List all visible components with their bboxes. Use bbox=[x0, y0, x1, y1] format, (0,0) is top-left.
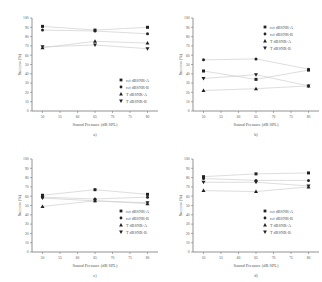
y-tick-label: 100 bbox=[23, 157, 29, 161]
y-tick-label: 70 bbox=[25, 185, 29, 189]
y-tick-label: 0 bbox=[27, 250, 29, 254]
y-tick-label: 30 bbox=[186, 222, 190, 226]
legend-label: T dBSNR-A bbox=[270, 39, 291, 44]
y-tick-label: 80 bbox=[25, 176, 29, 180]
marker-circle bbox=[120, 86, 123, 89]
legend-label: ref dBSNR-B bbox=[270, 216, 293, 221]
legend-label: T dBSNR-A bbox=[126, 92, 147, 97]
marker-circle bbox=[120, 217, 123, 220]
x-tick-label: 75 bbox=[128, 115, 132, 119]
panel-label: b) bbox=[254, 132, 258, 137]
y-tick-label: 70 bbox=[186, 44, 190, 48]
marker-triangle-up bbox=[263, 39, 267, 42]
y-tick-label: 20 bbox=[25, 91, 29, 95]
x-tick-label: 55 bbox=[58, 256, 62, 260]
y-tick-label: 0 bbox=[188, 250, 190, 254]
y-tick-label: 40 bbox=[25, 213, 29, 217]
x-tick-label: 70 bbox=[111, 256, 115, 260]
y-tick-label: 90 bbox=[186, 167, 190, 171]
marker-square bbox=[264, 26, 267, 29]
marker-square bbox=[120, 79, 123, 82]
marker-triangle-down bbox=[119, 100, 123, 103]
marker-square bbox=[255, 78, 258, 81]
legend-label: ref dBSNR-A bbox=[270, 209, 293, 214]
marker-triangle-up bbox=[263, 223, 267, 226]
marker-square bbox=[94, 188, 97, 191]
y-tick-label: 30 bbox=[186, 81, 190, 85]
x-tick-label: 60 bbox=[76, 115, 80, 119]
x-tick-label: 80 bbox=[307, 256, 311, 260]
marker-circle bbox=[264, 33, 267, 36]
y-tick-label: 60 bbox=[25, 54, 29, 58]
chart-panel-d: 010203040506070809010050556065707580Soun… bbox=[161, 141, 322, 282]
marker-circle bbox=[146, 32, 149, 35]
marker-square bbox=[146, 26, 149, 29]
x-tick-label: 75 bbox=[289, 115, 293, 119]
y-tick-label: 10 bbox=[186, 241, 190, 245]
x-axis-label: Sound Pressure (dB SPL) bbox=[233, 122, 279, 127]
y-tick-label: 0 bbox=[27, 109, 29, 113]
marker-circle bbox=[307, 179, 310, 182]
marker-circle bbox=[307, 68, 310, 71]
y-tick-label: 40 bbox=[25, 72, 29, 76]
x-tick-label: 50 bbox=[202, 115, 206, 119]
legend: ref dBSNR-Aref dBSNR-BT dBSNR-AT dBSNR-B bbox=[119, 209, 149, 235]
legend-label: ref dBSNR-A bbox=[270, 25, 293, 30]
x-tick-label: 80 bbox=[307, 115, 311, 119]
y-tick-label: 90 bbox=[25, 167, 29, 171]
x-tick-label: 55 bbox=[219, 256, 223, 260]
y-tick-label: 60 bbox=[186, 195, 190, 199]
y-tick-label: 20 bbox=[25, 232, 29, 236]
y-tick-label: 90 bbox=[25, 26, 29, 30]
x-tick-label: 65 bbox=[254, 256, 258, 260]
x-tick-label: 50 bbox=[41, 256, 45, 260]
y-tick-label: 40 bbox=[186, 72, 190, 76]
chart-panel-a: 010203040506070809010050556065707580Soun… bbox=[0, 0, 161, 141]
x-tick-label: 80 bbox=[146, 115, 150, 119]
y-tick-label: 50 bbox=[25, 204, 29, 208]
y-tick-label: 70 bbox=[25, 44, 29, 48]
y-tick-label: 10 bbox=[25, 100, 29, 104]
marker-circle bbox=[94, 30, 97, 33]
legend: ref dBSNR-Aref dBSNR-BT dBSNR-AT dBSNR-B bbox=[119, 78, 149, 104]
y-axis-label: Success (%) bbox=[178, 53, 183, 75]
legend-label: T dBSNR-B bbox=[126, 99, 147, 104]
x-axis-label: Sound Pressure (dB SPL) bbox=[72, 122, 118, 127]
legend-label: T dBSNR-A bbox=[270, 223, 291, 228]
marker-triangle-down bbox=[263, 231, 267, 234]
y-tick-label: 60 bbox=[25, 195, 29, 199]
marker-square bbox=[120, 210, 123, 213]
y-tick-label: 80 bbox=[25, 35, 29, 39]
chart-panel-b: 010203040506070809010050556065707580Soun… bbox=[161, 0, 322, 141]
marker-circle bbox=[41, 29, 44, 32]
legend: ref dBSNR-Aref dBSNR-BT dBSNR-AT dBSNR-B bbox=[263, 25, 293, 51]
y-tick-label: 100 bbox=[184, 157, 190, 161]
y-tick-label: 90 bbox=[186, 26, 190, 30]
marker-triangle-down bbox=[263, 47, 267, 50]
chart-d: 010203040506070809010050556065707580Soun… bbox=[161, 141, 322, 282]
panel-label: d) bbox=[254, 273, 258, 278]
y-tick-label: 50 bbox=[186, 204, 190, 208]
marker-square bbox=[41, 25, 44, 28]
marker-square bbox=[264, 210, 267, 213]
marker-triangle-down bbox=[119, 231, 123, 234]
marker-square bbox=[146, 193, 149, 196]
y-tick-label: 10 bbox=[186, 100, 190, 104]
x-tick-label: 50 bbox=[202, 256, 206, 260]
x-axis-label: Sound Pressure (dB SPL) bbox=[233, 263, 279, 268]
legend-label: T dBSNR-B bbox=[126, 230, 147, 235]
legend-label: ref dBSNR-A bbox=[126, 209, 149, 214]
x-tick-label: 70 bbox=[272, 256, 276, 260]
y-tick-label: 20 bbox=[186, 91, 190, 95]
legend-label: T dBSNR-A bbox=[126, 223, 147, 228]
y-tick-label: 20 bbox=[186, 232, 190, 236]
legend: ref dBSNR-Aref dBSNR-BT dBSNR-AT dBSNR-B bbox=[263, 209, 293, 235]
y-tick-label: 80 bbox=[186, 176, 190, 180]
chart-c: 010203040506070809010050556065707580Soun… bbox=[0, 141, 161, 282]
legend-label: ref dBSNR-B bbox=[126, 85, 149, 90]
panel-label: c) bbox=[93, 273, 97, 278]
marker-circle bbox=[264, 217, 267, 220]
legend-label: ref dBSNR-B bbox=[270, 32, 293, 37]
y-axis-label: Success (%) bbox=[17, 194, 22, 216]
y-tick-label: 10 bbox=[25, 241, 29, 245]
